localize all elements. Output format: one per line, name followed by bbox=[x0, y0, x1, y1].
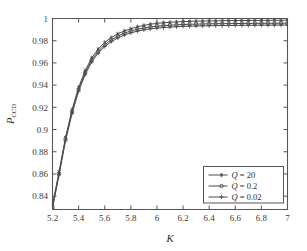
x-tick-label: 6 bbox=[155, 213, 160, 223]
x-tick-label: 5.8 bbox=[125, 213, 137, 223]
chart-figure: 5.25.45.65.866.26.46.66.870.840.860.880.… bbox=[0, 0, 307, 251]
y-tick-label: 0.9 bbox=[37, 125, 49, 135]
y-tick-label: 0.94 bbox=[32, 80, 48, 90]
legend: Q = 20Q = 0.2Q = 0.02 bbox=[209, 170, 262, 202]
x-tick-label: 5.2 bbox=[47, 213, 58, 223]
x-tick-label: 6.6 bbox=[230, 213, 242, 223]
y-tick-label: 1 bbox=[44, 14, 49, 24]
x-tick-label: 6.8 bbox=[256, 213, 268, 223]
svg-text:PCCD: PCCD bbox=[5, 104, 17, 125]
y-tick-label: 0.96 bbox=[32, 58, 48, 68]
y-tick-label: 0.92 bbox=[32, 103, 48, 113]
y-tick-label: 0.86 bbox=[32, 169, 48, 179]
legend-label: Q = 20 bbox=[232, 170, 256, 180]
legend-label: Q = 0.2 bbox=[232, 181, 258, 191]
x-tick-label: 6.2 bbox=[177, 213, 188, 223]
line-chart: 5.25.45.65.866.26.46.66.870.840.860.880.… bbox=[0, 0, 307, 251]
legend-label: Q = 0.02 bbox=[232, 192, 262, 202]
y-axis-title: PCCD bbox=[5, 104, 17, 125]
x-tick-label: 5.4 bbox=[73, 213, 85, 223]
x-tick-label: 6.4 bbox=[204, 213, 216, 223]
y-tick-label: 0.84 bbox=[32, 191, 48, 201]
y-tick-label: 0.98 bbox=[32, 36, 48, 46]
x-axis-title: K bbox=[165, 233, 174, 244]
x-tick-label: 5.6 bbox=[99, 213, 111, 223]
x-tick-label: 7 bbox=[285, 213, 290, 223]
y-tick-label: 0.88 bbox=[32, 147, 48, 157]
